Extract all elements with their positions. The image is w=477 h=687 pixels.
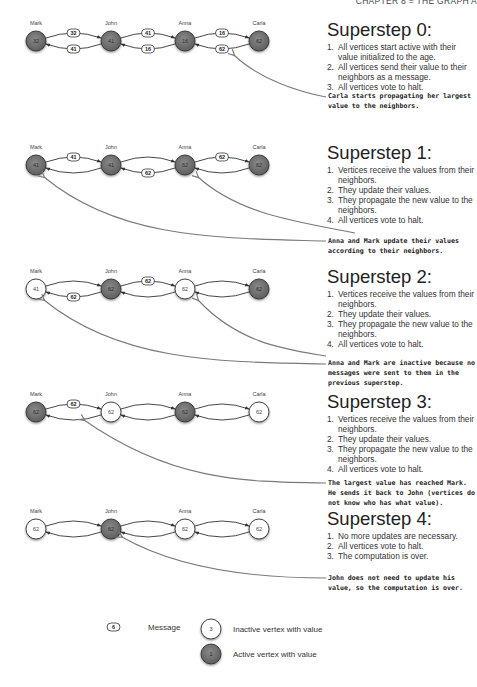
edge-backward bbox=[195, 415, 249, 420]
superstep-2-title: Superstep 2: bbox=[327, 266, 432, 288]
superstep-3-note: The largest value has reached Mark. He s… bbox=[328, 478, 476, 508]
list-item: 1.All vertices start active with their v… bbox=[327, 42, 477, 62]
vertex-mark: Mark41 bbox=[26, 268, 46, 299]
svg-text:62: 62 bbox=[145, 170, 151, 176]
annotation-arrow-mark-2 bbox=[44, 300, 326, 364]
svg-text:John: John bbox=[105, 20, 117, 26]
message-anna-to-john: 16 bbox=[142, 45, 155, 53]
svg-text:Mark: Mark bbox=[30, 268, 42, 274]
list-item: 1.Vertices receive the values from their… bbox=[327, 165, 477, 185]
vertex-john: John41 bbox=[101, 20, 121, 51]
svg-text:62: 62 bbox=[256, 526, 262, 532]
vertex-mark: Mark62 bbox=[26, 391, 46, 422]
message-mark-to-john: 32 bbox=[67, 29, 80, 37]
svg-text:32: 32 bbox=[70, 30, 76, 36]
message-mark-to-john: 62 bbox=[67, 400, 80, 408]
vertex-anna: Anna16 bbox=[175, 20, 195, 51]
vertex-carla: Carla62 bbox=[249, 268, 269, 299]
edge-forward bbox=[121, 157, 175, 162]
svg-text:32: 32 bbox=[33, 38, 39, 44]
svg-text:62: 62 bbox=[70, 401, 76, 407]
vertex-mark: Mark32 bbox=[26, 20, 46, 51]
svg-text:Carla: Carla bbox=[252, 268, 266, 274]
message-anna-to-carla: 62 bbox=[216, 153, 229, 161]
svg-text:62: 62 bbox=[256, 162, 262, 168]
svg-text:62: 62 bbox=[182, 409, 188, 415]
vertex-john: John41 bbox=[101, 144, 121, 175]
list-item: 2.They update their values. bbox=[327, 185, 477, 195]
vertex-carla: Carla62 bbox=[249, 391, 269, 422]
svg-text:41: 41 bbox=[33, 162, 39, 168]
list-item: 3.They propagate the new value to the ne… bbox=[327, 319, 477, 339]
legend-active-sample: 1 bbox=[209, 651, 212, 657]
list-item: 3.The computation is over. bbox=[327, 551, 477, 561]
svg-text:62: 62 bbox=[108, 409, 114, 415]
svg-text:62: 62 bbox=[145, 278, 151, 284]
vertex-john: John62 bbox=[101, 391, 121, 422]
svg-text:Anna: Anna bbox=[179, 268, 193, 274]
message-anna-to-carla: 16 bbox=[216, 29, 229, 37]
annotation-arrow-carla bbox=[234, 55, 326, 97]
svg-text:41: 41 bbox=[145, 30, 151, 36]
svg-text:Carla: Carla bbox=[252, 144, 266, 150]
list-item: 4.All vertices vote to halt. bbox=[327, 464, 477, 474]
list-item: 3.They propagate the new value to the ne… bbox=[327, 195, 477, 215]
edge-forward bbox=[121, 404, 175, 409]
svg-text:16: 16 bbox=[145, 46, 151, 52]
legend-inactive-sample: 3 bbox=[209, 626, 212, 632]
annotation-arrow-john bbox=[122, 537, 326, 578]
svg-text:41: 41 bbox=[70, 154, 76, 160]
vertex-anna: Anna62 bbox=[175, 508, 195, 539]
svg-text:41: 41 bbox=[33, 286, 39, 292]
svg-text:62: 62 bbox=[70, 294, 76, 300]
svg-text:41: 41 bbox=[108, 162, 114, 168]
superstep-1-list: 1.Vertices receive the values from their… bbox=[327, 165, 477, 225]
superstep-graphs: 324141161662Mark32John41Anna16Carla62416… bbox=[26, 20, 269, 539]
list-item: 3.They propagate the new value to the ne… bbox=[327, 444, 477, 464]
edge-backward bbox=[121, 292, 175, 297]
superstep-4-note: John does not need to update his value, … bbox=[328, 573, 476, 593]
svg-text:62: 62 bbox=[182, 526, 188, 532]
annotation-arrow-anna-2 bbox=[198, 300, 326, 356]
message-john-to-mark: 41 bbox=[67, 45, 80, 53]
svg-text:62: 62 bbox=[256, 38, 262, 44]
svg-text:62: 62 bbox=[33, 409, 39, 415]
svg-text:Mark: Mark bbox=[30, 508, 42, 514]
svg-text:Anna: Anna bbox=[179, 391, 193, 397]
svg-text:62: 62 bbox=[256, 409, 262, 415]
svg-text:Mark: Mark bbox=[30, 144, 42, 150]
svg-text:16: 16 bbox=[219, 30, 225, 36]
legend-active-label: Active vertex with value bbox=[233, 650, 317, 659]
superstep-3-title: Superstep 3: bbox=[327, 391, 432, 413]
vertex-anna: Anna62 bbox=[175, 391, 195, 422]
superstep-4-title: Superstep 4: bbox=[327, 508, 432, 530]
message-carla-to-anna: 62 bbox=[216, 45, 229, 53]
superstep-3-list: 1.Vertices receive the values from their… bbox=[327, 414, 477, 474]
edge-forward bbox=[46, 521, 101, 526]
list-item: 2.All vertices send their value to their… bbox=[327, 62, 477, 82]
superstep-4-graph: Mark62John62Anna62Carla62 bbox=[26, 508, 269, 539]
list-item: 4.All vertices vote to halt. bbox=[327, 215, 477, 225]
svg-text:Anna: Anna bbox=[179, 508, 193, 514]
list-item: 1.Vertices receive the values from their… bbox=[327, 289, 477, 309]
vertex-anna: Anna62 bbox=[175, 268, 195, 299]
svg-text:Carla: Carla bbox=[252, 508, 266, 514]
svg-text:62: 62 bbox=[219, 46, 225, 52]
svg-text:John: John bbox=[105, 508, 117, 514]
superstep-1-graph: 416262Mark41John41Anna62Carla62 bbox=[26, 144, 269, 177]
svg-text:62: 62 bbox=[219, 154, 225, 160]
edge-forward bbox=[195, 404, 249, 409]
edge-backward bbox=[195, 532, 249, 537]
edge-forward bbox=[195, 521, 249, 526]
svg-text:62: 62 bbox=[33, 526, 39, 532]
superstep-4-list: 1.No more updates are necessary. 2.All v… bbox=[327, 531, 477, 561]
edge-forward bbox=[121, 521, 175, 526]
svg-text:62: 62 bbox=[182, 162, 188, 168]
svg-text:16: 16 bbox=[182, 38, 188, 44]
list-item: 2.All vertices vote to halt. bbox=[327, 541, 477, 551]
vertex-john: John62 bbox=[101, 508, 121, 539]
edge-forward bbox=[195, 281, 249, 286]
superstep-0-graph: 324141161662Mark32John41Anna16Carla62 bbox=[26, 20, 269, 53]
message-john-to-mark: 62 bbox=[67, 293, 80, 301]
legend-inactive-label: Inactive vertex with value bbox=[233, 625, 322, 634]
